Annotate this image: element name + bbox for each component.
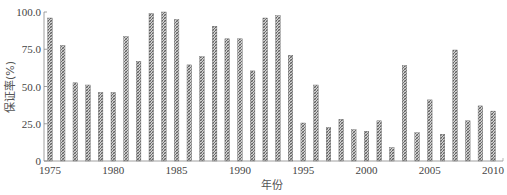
x-tick-label: 1975 [39,164,62,176]
x-axis-title: 年份 [261,178,283,192]
x-tick-label: 2000 [356,164,379,176]
bar-2005: 2005: 41 [428,100,433,161]
bar-1983: 1983: 99 [149,14,154,162]
y-axis: 025.050.075.0100.0 [16,6,47,167]
bar-2006: 2006: 18 [440,134,445,161]
bar-1994: 1994: 71 [288,55,293,161]
bar-1979: 1979: 46 [98,93,103,162]
bar-1987: 1987: 70 [200,57,205,161]
bar-1998: 1998: 28 [339,119,344,161]
y-tick-label: 75.0 [22,43,42,55]
bar-1975: 1975: 96 [48,18,53,161]
bar-2008: 2008: 27 [466,121,471,161]
bar-2003: 2003: 64 [402,66,407,161]
bar-1993: 1993: 97.5 [276,16,281,161]
bar-1976: 1976: 77.5 [60,46,65,162]
y-axis-title: 保证率(%) [3,61,17,113]
bar-chart: 1975: 961976: 77.51977: 52.51978: 511979… [0,0,507,195]
x-tick-label: 2005 [419,164,442,176]
bar-2009: 2009: 37 [478,106,483,161]
bar-1991: 1991: 60.5 [250,71,255,161]
x-axis: 19751980198519901995200020052010 [39,158,505,176]
bar-2002: 2002: 9 [390,148,395,161]
bar-2000: 2000: 20 [364,131,369,161]
bar-1981: 1981: 83.5 [124,37,129,161]
x-tick-label: 1995 [292,164,315,176]
bar-1986: 1986: 64.5 [187,65,192,161]
y-tick-label: 100.0 [16,6,41,18]
bar-1996: 1996: 51 [314,85,319,161]
bar-1984: 1984: 100 [162,12,167,161]
bar-1989: 1989: 82 [225,39,230,161]
bar-2004: 2004: 19 [415,133,420,161]
bars-group: 1975: 961976: 77.51977: 52.51978: 511979… [48,12,496,161]
x-tick-label: 1990 [229,164,252,176]
bar-1977: 1977: 52.5 [73,83,78,161]
bar-1995: 1995: 25.5 [301,123,306,161]
bar-1985: 1985: 95 [174,20,179,162]
bar-1990: 1990: 82 [238,39,243,161]
bar-2010: 2010: 33.5 [491,111,496,161]
bar-2007: 2007: 74.5 [453,50,458,161]
bar-1980: 1980: 46 [111,93,116,162]
y-tick-label: 50.0 [22,81,42,93]
bar-1982: 1982: 67 [136,61,141,161]
bar-1978: 1978: 51 [86,85,91,161]
x-tick-label: 1985 [166,164,189,176]
bar-1988: 1988: 90.5 [212,26,217,161]
x-tick-label: 1980 [102,164,125,176]
bar-1999: 1999: 21 [352,130,357,161]
bar-1992: 1992: 96 [263,18,268,161]
y-tick-label: 25.0 [22,118,42,130]
x-tick-label: 2010 [482,164,505,176]
bar-2001: 2001: 27 [377,121,382,161]
bar-1997: 1997: 22.5 [326,128,331,162]
